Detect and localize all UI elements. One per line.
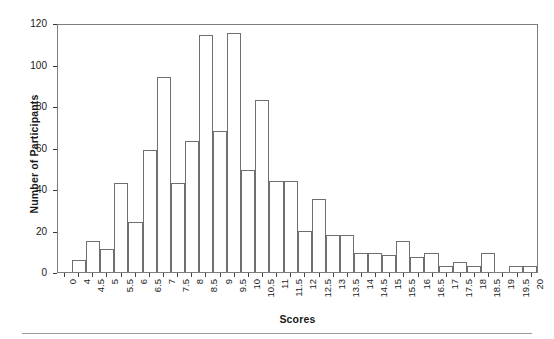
histogram-bar [523,266,537,272]
x-tick-mark [205,273,206,277]
x-tick-mark [319,273,320,277]
x-label-cell: 17.5 [453,278,467,312]
bar-cell [481,25,495,272]
bar-cell [382,25,396,272]
x-label-cell: 12.5 [312,278,326,312]
bar-cell [241,25,255,272]
x-tick-mark [432,273,433,277]
x-tick-mark [92,273,93,277]
histogram-bar [171,183,185,272]
histogram-bar [284,181,298,272]
bar-cell [255,25,269,272]
x-label-cell: 15 [382,278,396,312]
bar-cell [509,25,523,272]
x-tick-mark [290,273,291,277]
x-label-cell: 15.5 [396,278,410,312]
bar-cell [368,25,382,272]
x-tick-mark [163,273,164,277]
histogram-bar [298,231,312,273]
x-label-cell: 5.5 [114,278,128,312]
x-label-cell: 14 [354,278,368,312]
bar-cell [312,25,326,272]
bar-cell [143,25,157,272]
x-label-cell: 6 [128,278,142,312]
bar-cell [326,25,340,272]
x-label-cell: 18.5 [481,278,495,312]
bar-cell [340,25,354,272]
x-tick-mark [418,273,419,277]
x-tick-mark [248,273,249,277]
x-tick-mark [333,273,334,277]
x-label-cell: 10.5 [255,278,269,312]
histogram-bar [157,77,171,272]
x-label-cell: 8.5 [198,278,212,312]
x-label-cell: 13 [326,278,340,312]
x-tick-mark [403,273,404,277]
x-label-cell: 16.5 [425,278,439,312]
x-tick-label: 20 [535,279,545,290]
x-tick-mark [460,273,461,277]
x-label-cell: 9 [213,278,227,312]
x-axis-tick-labels: 044.555.566.577.588.599.51010.51111.5121… [57,278,538,312]
x-tick-mark [64,273,65,277]
bar-cell [72,25,86,272]
y-tick-label: 100 [30,61,47,71]
x-tick-mark [304,273,305,277]
histogram-bar [241,170,255,272]
x-tick-mark [191,273,192,277]
bar-cell [86,25,100,272]
x-label-cell: 16 [411,278,425,312]
x-tick-mark [220,273,221,277]
x-label-cell: 17 [439,278,453,312]
bar-cell [495,25,509,272]
bar-cell [410,25,424,272]
x-tick-mark [234,273,235,277]
plot-area [57,24,538,273]
bar-cell [114,25,128,272]
histogram-bar [143,150,157,272]
x-label-cell: 7.5 [170,278,184,312]
histogram-bar [86,241,100,272]
x-label-cell: 9.5 [227,278,241,312]
histogram-bar [312,199,326,272]
x-axis-title: Scores [57,313,538,325]
x-tick-mark [106,273,107,277]
bar-cell [298,25,312,272]
x-label-cell: 11 [269,278,283,312]
bar-series [58,25,537,272]
histogram-bar [424,253,438,272]
x-tick-mark [389,273,390,277]
bar-cell [171,25,185,272]
x-label-cell: 6.5 [142,278,156,312]
histogram-bar [453,262,467,272]
x-tick-mark [375,273,376,277]
x-tick-mark [531,273,532,277]
x-label-cell: 14.5 [368,278,382,312]
y-tick-label: 20 [36,227,47,237]
x-tick-mark [149,273,150,277]
histogram-bar [199,35,213,272]
histogram-bar [326,235,340,272]
histogram-bar [100,249,114,272]
bar-cell [439,25,453,272]
histogram-bar [185,141,199,272]
x-label-cell: 8 [184,278,198,312]
bar-cell [199,25,213,272]
x-label-cell: 13.5 [340,278,354,312]
bottom-divider [22,333,532,334]
x-tick-mark [474,273,475,277]
x-label-cell: 4.5 [85,278,99,312]
histogram-bar [269,181,283,272]
histogram-bar [213,131,227,272]
x-tick-mark [446,273,447,277]
x-label-cell: 12 [297,278,311,312]
histogram-bar [128,222,142,272]
x-tick-mark [177,273,178,277]
x-label-cell: 20 [524,278,538,312]
bar-cell [58,25,72,272]
histogram-bar [354,253,368,272]
x-tick-mark [488,273,489,277]
y-tick-label: 120 [30,19,47,29]
x-tick-mark [78,273,79,277]
histogram-figure: Number of Participants 020406080100120 0… [0,0,554,339]
